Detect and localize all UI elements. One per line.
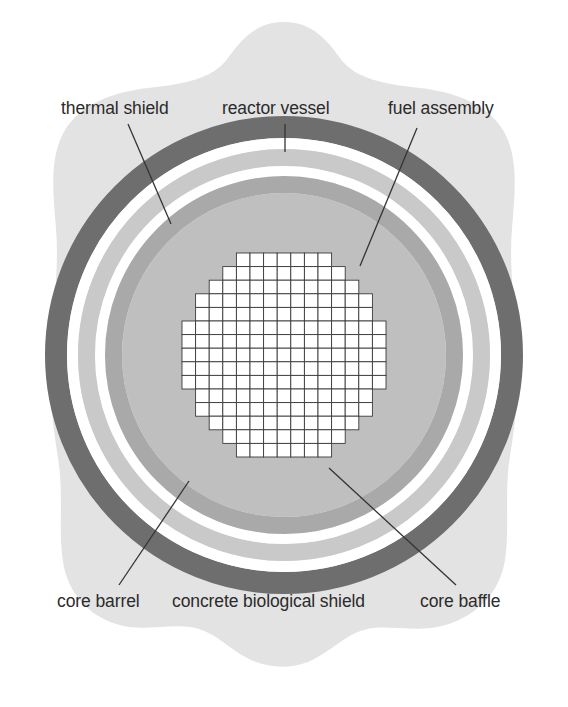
fuel-assembly-cell <box>332 430 346 444</box>
fuel-assembly-cell <box>318 430 332 444</box>
fuel-assembly-cell <box>332 375 346 389</box>
fuel-assembly-cell <box>332 267 346 281</box>
fuel-assembly-cell <box>209 348 223 362</box>
fuel-assembly-cell <box>223 280 237 294</box>
fuel-assembly-cell <box>304 294 318 308</box>
fuel-assembly-cell <box>264 294 278 308</box>
fuel-assembly-cell <box>264 430 278 444</box>
fuel-assembly-cell <box>223 430 237 444</box>
fuel-assembly-cell <box>223 389 237 403</box>
fuel-assembly-cell <box>332 280 346 294</box>
fuel-assembly-cell <box>264 416 278 430</box>
fuel-assembly-cell <box>332 389 346 403</box>
fuel-assembly-cell <box>250 321 264 335</box>
fuel-assembly-cell <box>277 416 291 430</box>
fuel-assembly-cell <box>304 443 318 457</box>
fuel-assembly-cell <box>209 389 223 403</box>
fuel-assembly-cell <box>236 335 250 349</box>
fuel-assembly-cell <box>236 294 250 308</box>
fuel-assembly-cell <box>236 307 250 321</box>
fuel-assembly-cell <box>250 403 264 417</box>
fuel-assembly-cell <box>250 416 264 430</box>
fuel-assembly-cell <box>291 267 305 281</box>
fuel-assembly-cell <box>359 375 373 389</box>
fuel-assembly-cell <box>345 280 359 294</box>
fuel-assembly-cell <box>318 416 332 430</box>
fuel-assembly-cell <box>209 362 223 376</box>
fuel-assembly-cell <box>332 416 346 430</box>
fuel-assembly-cell <box>264 267 278 281</box>
fuel-assembly-cell <box>304 416 318 430</box>
fuel-assembly-cell <box>250 348 264 362</box>
fuel-assembly-cell <box>277 280 291 294</box>
fuel-assembly-cell <box>345 307 359 321</box>
fuel-assembly-cell <box>223 403 237 417</box>
fuel-assembly-cell <box>236 362 250 376</box>
fuel-assembly-cell <box>236 389 250 403</box>
fuel-assembly-cell <box>264 307 278 321</box>
fuel-assembly-cell <box>264 443 278 457</box>
fuel-assembly-cell <box>209 375 223 389</box>
fuel-assembly-cell <box>196 348 210 362</box>
fuel-assembly-cell <box>291 362 305 376</box>
fuel-assembly-cell <box>291 335 305 349</box>
fuel-assembly-cell <box>196 362 210 376</box>
fuel-assembly-cell <box>304 307 318 321</box>
fuel-assembly-lattice <box>182 253 386 457</box>
fuel-assembly-cell <box>332 321 346 335</box>
fuel-assembly-cell <box>277 430 291 444</box>
fuel-assembly-cell <box>264 321 278 335</box>
fuel-assembly-cell <box>318 362 332 376</box>
fuel-assembly-cell <box>277 307 291 321</box>
fuel-assembly-cell <box>291 321 305 335</box>
fuel-assembly-cell <box>304 430 318 444</box>
fuel-assembly-cell <box>291 443 305 457</box>
fuel-assembly-cell <box>359 403 373 417</box>
fuel-assembly-cell <box>291 280 305 294</box>
fuel-assembly-cell <box>223 375 237 389</box>
label-thermal-shield: thermal shield <box>61 98 169 119</box>
fuel-assembly-cell <box>318 280 332 294</box>
label-concrete-biological-shield: concrete biological shield <box>172 591 365 612</box>
fuel-assembly-cell <box>277 335 291 349</box>
fuel-assembly-cell <box>250 375 264 389</box>
fuel-assembly-cell <box>250 389 264 403</box>
fuel-assembly-cell <box>209 403 223 417</box>
fuel-assembly-cell <box>264 335 278 349</box>
fuel-assembly-cell <box>236 280 250 294</box>
fuel-assembly-cell <box>277 253 291 267</box>
fuel-assembly-cell <box>345 335 359 349</box>
fuel-assembly-cell <box>318 348 332 362</box>
fuel-assembly-cell <box>345 321 359 335</box>
fuel-assembly-cell <box>332 362 346 376</box>
fuel-assembly-cell <box>291 403 305 417</box>
fuel-assembly-cell <box>236 430 250 444</box>
fuel-assembly-cell <box>345 389 359 403</box>
fuel-assembly-cell <box>223 294 237 308</box>
fuel-assembly-cell <box>250 307 264 321</box>
fuel-assembly-cell <box>291 294 305 308</box>
fuel-assembly-cell <box>196 403 210 417</box>
fuel-assembly-cell <box>196 294 210 308</box>
fuel-assembly-cell <box>332 307 346 321</box>
fuel-assembly-cell <box>236 253 250 267</box>
fuel-assembly-cell <box>250 430 264 444</box>
fuel-assembly-cell <box>209 416 223 430</box>
fuel-assembly-cell <box>304 253 318 267</box>
fuel-assembly-cell <box>236 443 250 457</box>
fuel-assembly-cell <box>372 362 386 376</box>
fuel-assembly-cell <box>372 348 386 362</box>
fuel-assembly-cell <box>196 307 210 321</box>
fuel-assembly-cell <box>250 362 264 376</box>
fuel-assembly-cell <box>345 375 359 389</box>
fuel-assembly-cell <box>264 403 278 417</box>
fuel-assembly-cell <box>304 403 318 417</box>
fuel-assembly-cell <box>332 335 346 349</box>
fuel-assembly-cell <box>277 267 291 281</box>
fuel-assembly-cell <box>318 375 332 389</box>
fuel-assembly-cell <box>277 348 291 362</box>
fuel-assembly-cell <box>236 267 250 281</box>
fuel-assembly-cell <box>264 362 278 376</box>
fuel-assembly-cell <box>318 267 332 281</box>
fuel-assembly-cell <box>318 403 332 417</box>
